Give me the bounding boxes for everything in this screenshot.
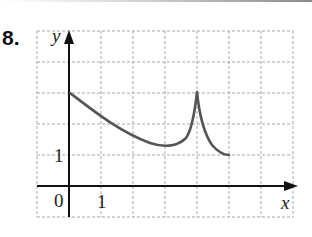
x-axis-arrow-icon [284,181,298,191]
grid [37,31,293,217]
x-axis-label: x [280,192,290,213]
x-tick-label-1: 1 [97,191,107,212]
graph: y x 0 1 1 [0,0,312,237]
y-axis-label: y [50,25,61,46]
y-tick-label-1: 1 [54,145,64,166]
origin-label: 0 [54,190,64,211]
y-axis-arrow-icon [64,30,74,44]
